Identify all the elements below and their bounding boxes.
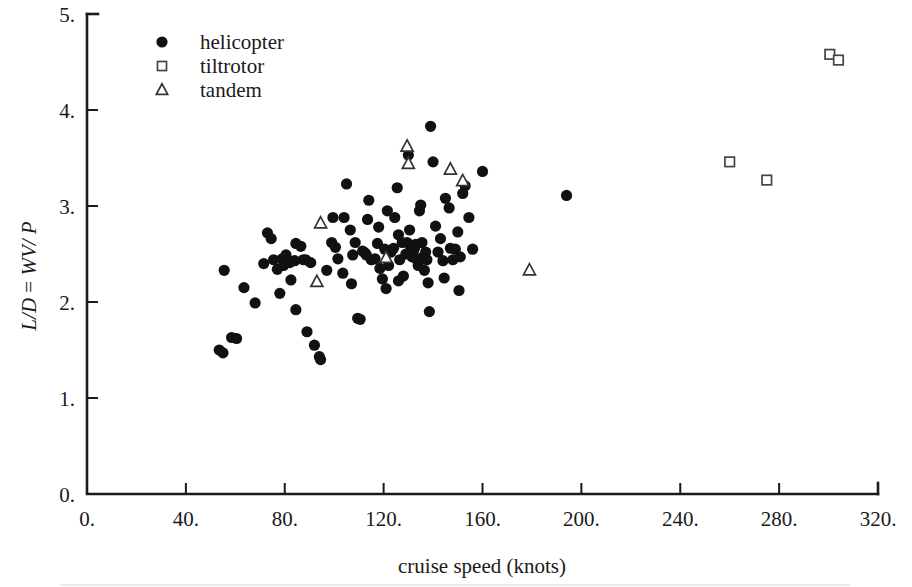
data-point-helicopter	[258, 258, 269, 269]
data-series-layer	[214, 50, 844, 366]
x-axis-title: cruise speed (knots)	[398, 554, 566, 578]
data-point-helicopter	[437, 255, 448, 266]
data-point-helicopter	[314, 351, 325, 362]
data-point-helicopter	[423, 277, 434, 288]
data-point-helicopter	[393, 275, 404, 286]
data-point-helicopter	[374, 263, 385, 274]
data-point-helicopter	[238, 282, 249, 293]
data-point-helicopter	[341, 178, 352, 189]
y-tick-label: 5.	[59, 3, 75, 27]
data-point-helicopter	[455, 251, 466, 262]
data-point-helicopter	[380, 283, 391, 294]
scatter-plot-canvas: 0.40.80.120.160.200.240.280.320. 0.1.2.3…	[0, 0, 912, 587]
data-point-helicopter	[350, 237, 361, 248]
data-point-helicopter	[430, 221, 441, 232]
data-point-helicopter	[421, 254, 432, 265]
data-point-helicopter	[440, 193, 451, 204]
legend-item-tiltrotor: tiltrotor	[157, 54, 264, 78]
data-point-helicopter	[463, 212, 474, 223]
chart-legend: helicoptertiltrotortandem	[156, 30, 284, 102]
data-point-helicopter	[285, 274, 296, 285]
data-point-helicopter	[345, 224, 356, 235]
data-point-tiltrotor	[762, 175, 772, 185]
y-axis-tick-labels: 0.1.2.3.4.5.	[59, 3, 75, 507]
data-point-tiltrotor	[834, 55, 844, 65]
data-point-tandem	[311, 275, 323, 286]
data-point-helicopter	[444, 202, 455, 213]
data-point-helicopter	[355, 314, 366, 325]
data-point-helicopter	[217, 347, 228, 358]
data-point-tandem	[315, 217, 327, 228]
series-tiltrotor	[725, 50, 843, 185]
data-point-helicopter	[327, 212, 338, 223]
data-point-helicopter	[337, 268, 348, 279]
data-point-tandem	[523, 264, 535, 275]
data-point-helicopter	[392, 182, 403, 193]
y-axis-title: L/D = WV/ P	[17, 221, 41, 331]
y-axis-ticks	[87, 110, 98, 398]
data-point-helicopter	[425, 121, 436, 132]
data-point-helicopter	[249, 297, 260, 308]
data-point-helicopter	[382, 205, 393, 216]
x-axis-ticks	[186, 483, 779, 494]
x-tick-label: 280.	[761, 507, 798, 531]
data-point-helicopter	[361, 249, 372, 260]
data-point-helicopter	[219, 265, 230, 276]
series-helicopter	[214, 121, 572, 365]
x-tick-label: 320.	[860, 507, 897, 531]
data-point-tandem	[401, 140, 413, 151]
y-tick-label: 0.	[59, 483, 75, 507]
x-tick-label: 0.	[79, 507, 95, 531]
data-point-helicopter	[404, 224, 415, 235]
data-point-helicopter	[290, 304, 301, 315]
data-point-helicopter	[321, 265, 332, 276]
data-point-tandem	[444, 163, 456, 174]
legend-label-tandem: tandem	[200, 78, 262, 102]
x-tick-label: 240.	[662, 507, 699, 531]
data-point-helicopter	[338, 212, 349, 223]
scatter-plot-figure: 0.40.80.120.160.200.240.280.320. 0.1.2.3…	[0, 0, 912, 587]
data-point-helicopter	[373, 222, 384, 233]
data-point-helicopter	[477, 166, 488, 177]
legend-item-helicopter: helicopter	[156, 30, 284, 54]
scan-edge-artifact	[60, 584, 850, 586]
y-tick-label: 1.	[59, 387, 75, 411]
data-point-helicopter	[330, 242, 341, 253]
data-point-helicopter	[427, 156, 438, 167]
legend-marker-tandem	[156, 84, 167, 95]
legend-marker-helicopter	[156, 36, 167, 47]
data-point-helicopter	[435, 233, 446, 244]
data-point-helicopter	[363, 195, 374, 206]
data-point-helicopter	[301, 326, 312, 337]
data-point-tandem	[402, 157, 414, 168]
data-point-helicopter	[453, 285, 464, 296]
x-axis-tick-labels: 0.40.80.120.160.200.240.280.320.	[79, 507, 896, 531]
x-tick-label: 200.	[563, 507, 600, 531]
data-point-helicopter	[231, 333, 242, 344]
data-point-helicopter	[561, 190, 572, 201]
data-point-helicopter	[362, 214, 373, 225]
data-point-helicopter	[266, 233, 277, 244]
data-point-helicopter	[346, 278, 357, 289]
data-point-helicopter	[305, 257, 316, 268]
data-point-helicopter	[467, 244, 478, 255]
x-tick-label: 160.	[464, 507, 501, 531]
data-point-helicopter	[347, 249, 358, 260]
y-tick-label: 3.	[59, 195, 75, 219]
legend-marker-tiltrotor	[157, 61, 166, 70]
data-point-helicopter	[377, 273, 388, 284]
legend-item-tandem: tandem	[156, 78, 262, 102]
legend-label-helicopter: helicopter	[200, 30, 284, 54]
data-point-helicopter	[332, 253, 343, 264]
data-point-helicopter	[439, 272, 450, 283]
data-point-tiltrotor	[725, 157, 735, 167]
data-point-helicopter	[295, 241, 306, 252]
legend-label-tiltrotor: tiltrotor	[200, 54, 264, 78]
x-tick-label: 40.	[173, 507, 199, 531]
y-tick-label: 2.	[59, 291, 75, 315]
data-point-helicopter	[309, 340, 320, 351]
x-tick-label: 120.	[365, 507, 402, 531]
y-axis-title-group: L/D = WV/ P	[17, 221, 41, 331]
data-point-helicopter	[415, 199, 426, 210]
data-point-helicopter	[452, 226, 463, 237]
